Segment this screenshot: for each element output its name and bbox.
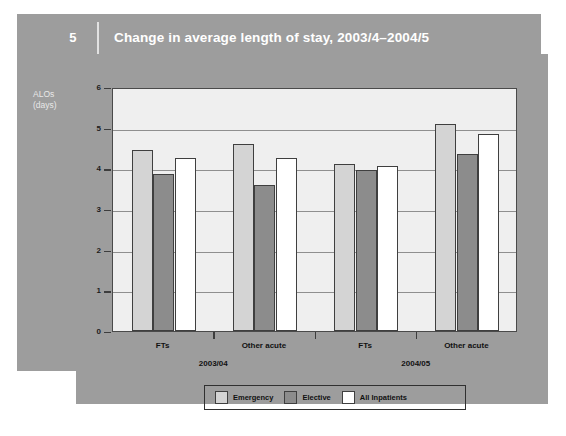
x-axis-year-label: 2004/05 bbox=[371, 359, 461, 368]
figure-page: 5 Change in average length of stay, 2003… bbox=[0, 0, 566, 436]
y-axis-tick bbox=[104, 88, 111, 89]
bar-emergency bbox=[435, 124, 456, 331]
chart-legend: EmergencyElectiveAll Inpatients bbox=[204, 385, 466, 410]
x-axis-tick bbox=[213, 332, 214, 339]
title-divider bbox=[97, 22, 99, 54]
legend-swatch-all bbox=[342, 391, 355, 404]
y-axis-tick bbox=[104, 169, 111, 170]
y-axis-caption-line1: ALOs bbox=[33, 89, 57, 100]
y-axis-tick bbox=[104, 129, 111, 130]
y-axis-tick-label: 6 bbox=[85, 83, 101, 92]
x-axis-category-label: Other acute bbox=[421, 341, 511, 350]
bar-all-inpatients bbox=[276, 158, 297, 331]
bar-elective bbox=[356, 170, 377, 331]
x-axis-category-label: Other acute bbox=[219, 341, 309, 350]
bars-layer bbox=[113, 89, 516, 331]
plot-area bbox=[112, 88, 517, 332]
bar-emergency bbox=[334, 164, 355, 331]
y-axis-tick bbox=[104, 210, 111, 211]
bar-emergency bbox=[233, 144, 254, 331]
legend-item-emergency[interactable]: Emergency bbox=[215, 391, 273, 404]
x-axis-category-label: FTs bbox=[118, 341, 208, 350]
y-axis-tick-label: 0 bbox=[85, 327, 101, 336]
y-axis-tick-label: 3 bbox=[85, 205, 101, 214]
bar-emergency bbox=[132, 150, 153, 331]
x-axis-category-label: FTs bbox=[320, 341, 410, 350]
bar-all-inpatients bbox=[377, 166, 398, 331]
y-axis-tick-label: 4 bbox=[85, 164, 101, 173]
legend-label-all: All Inpatients bbox=[360, 393, 407, 402]
legend-label-emergency: Emergency bbox=[233, 393, 273, 402]
bar-all-inpatients bbox=[175, 158, 196, 331]
y-axis-tick bbox=[104, 291, 111, 292]
x-axis-year-label: 2003/04 bbox=[168, 359, 258, 368]
y-axis-caption-line2: (days) bbox=[33, 100, 57, 111]
y-axis-tick bbox=[104, 332, 111, 333]
x-axis-tick bbox=[315, 332, 316, 339]
y-axis-tick-label: 5 bbox=[85, 124, 101, 133]
y-axis-caption: ALOs (days) bbox=[33, 89, 57, 111]
figure-number: 5 bbox=[60, 30, 86, 45]
bar-elective bbox=[457, 154, 478, 331]
y-axis-tick-label: 1 bbox=[85, 286, 101, 295]
legend-swatch-elective bbox=[284, 391, 297, 404]
bar-all-inpatients bbox=[478, 134, 499, 331]
legend-item-elective[interactable]: Elective bbox=[284, 391, 330, 404]
y-axis-tick-label: 2 bbox=[85, 246, 101, 255]
page-title: Change in average length of stay, 2003/4… bbox=[114, 30, 429, 45]
x-axis-tick bbox=[416, 332, 417, 339]
bar-elective bbox=[153, 174, 174, 331]
legend-label-elective: Elective bbox=[302, 393, 330, 402]
legend-swatch-emergency bbox=[215, 391, 228, 404]
y-axis-tick bbox=[104, 251, 111, 252]
bar-elective bbox=[254, 185, 275, 331]
legend-item-all[interactable]: All Inpatients bbox=[342, 391, 407, 404]
